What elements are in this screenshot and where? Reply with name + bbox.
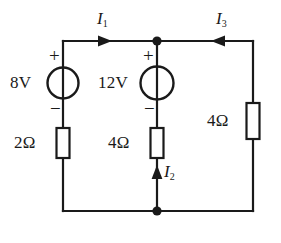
resistor-4ohm-right-label: 4Ω [207, 112, 229, 129]
resistor-4ohm-middle-symbol [151, 128, 164, 158]
resistor-4ohm-middle-label: 4Ω [108, 134, 130, 151]
current-i1-label: I1 [97, 10, 108, 27]
resistor-2ohm-left-label: 2Ω [14, 134, 36, 151]
current-i2-subscript: 2 [170, 171, 175, 182]
source-12v-label: 12V [98, 74, 128, 91]
current-i3-label: I3 [216, 10, 227, 27]
source-8v-label: 8V [10, 74, 31, 91]
source-12v-plus-sign: + [143, 46, 154, 65]
current-i2-label: I2 [164, 163, 175, 180]
node-bottom-center-dot [152, 206, 161, 215]
current-i1-arrowhead [98, 36, 112, 47]
current-i1-subscript: 1 [103, 18, 108, 29]
current-i2-arrowhead [152, 165, 163, 179]
source-8v-minus-sign: − [50, 99, 61, 118]
circuit-schematic-canvas [0, 0, 281, 243]
source-8v-plus-sign: + [49, 46, 60, 65]
node-top-center-dot [152, 36, 161, 45]
current-i1-symbol: I [97, 9, 103, 28]
current-i2-symbol: I [164, 162, 170, 181]
current-i3-subscript: 3 [222, 18, 227, 29]
current-i3-symbol: I [216, 9, 222, 28]
resistor-4ohm-right-symbol [247, 103, 260, 139]
source-12v-minus-sign: − [144, 99, 155, 118]
resistor-2ohm-left-symbol [57, 128, 70, 158]
circuit-diagram: 8V 12V + − + − 2Ω 4Ω 4Ω I1 I2 I3 [0, 0, 281, 243]
current-i3-arrowhead [211, 36, 225, 47]
